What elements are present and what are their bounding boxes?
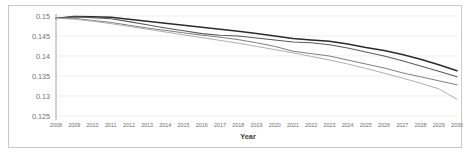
line-chart-plot: 0.150.1450.140.1350.130.125 200820092010… [9,6,463,149]
series-lines [56,16,457,99]
x-tick-label: 2021 [287,122,299,128]
x-tick-label: 2010 [86,122,98,128]
y-tick-label: 0.14 [36,52,50,61]
x-tick-label: 2026 [378,122,390,128]
x-tick-label: 2009 [68,122,80,128]
gridlines [56,16,457,116]
x-tick-label: 2012 [123,122,135,128]
x-tick-label: 2029 [433,122,445,128]
chart-container: 0.150.1450.140.1350.130.125 200820092010… [8,5,462,148]
x-tick-label: 2011 [105,122,117,128]
x-tick-label: 2019 [251,122,263,128]
x-tick-label: 2030 [451,122,463,128]
x-tick-label: 2025 [360,122,372,128]
y-tick-label: 0.15 [36,12,50,21]
x-tick-label: 2018 [232,122,244,128]
y-tick-label: 0.145 [32,32,50,41]
y-tick-label: 0.135 [32,72,50,81]
x-tick-label: 2008 [50,122,62,128]
x-tick-label: 2022 [305,122,317,128]
series-line-series-3-mid-gray [56,18,457,84]
y-tick-label: 0.125 [32,112,50,121]
x-tick-label: 2024 [342,122,354,128]
x-tick-label: 2020 [269,122,281,128]
y-tick-label: 0.13 [36,92,50,101]
x-axis-title: Year [240,132,256,141]
x-axis-tick-labels: 2008200920102011201220132014201520162017… [50,122,463,128]
x-tick-label: 2016 [196,122,208,128]
x-tick-label: 2028 [415,122,427,128]
x-tick-label: 2013 [141,122,153,128]
y-axis-tick-labels: 0.150.1450.140.1350.130.125 [32,12,50,121]
x-tick-label: 2015 [178,122,190,128]
x-tick-label: 2014 [159,122,171,128]
x-tick-label: 2023 [323,122,335,128]
x-tick-label: 2017 [214,122,226,128]
x-tick-label: 2027 [396,122,408,128]
